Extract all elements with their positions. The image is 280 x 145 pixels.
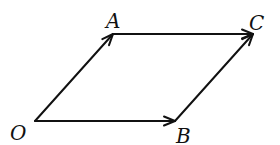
vector-bc [175, 34, 253, 121]
vector-oa [35, 34, 113, 121]
point-label-c: C [249, 11, 264, 35]
parallelogram-diagram: O A B C [0, 0, 280, 145]
point-label-b: B [175, 124, 191, 145]
point-label-o: O [10, 121, 26, 145]
vectors-group [35, 30, 253, 126]
labels-group: O A B C [10, 9, 264, 145]
point-label-a: A [104, 9, 120, 33]
